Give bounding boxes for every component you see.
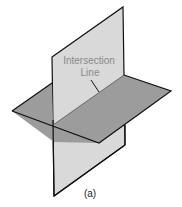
intersection-label-line1: Intersection (63, 55, 115, 66)
intersecting-planes-diagram: Intersection Line (a) (0, 0, 182, 207)
intersection-label-line2: Line (81, 67, 100, 78)
figure-caption: (a) (84, 188, 96, 199)
